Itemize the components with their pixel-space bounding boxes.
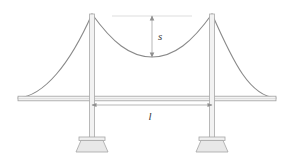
sag-label: s xyxy=(158,30,162,42)
left-tower xyxy=(90,14,95,139)
right-foundation-cap xyxy=(199,137,225,140)
figure-background xyxy=(0,0,292,160)
span-label: l xyxy=(148,110,151,122)
right-tower xyxy=(210,14,215,139)
left-foundation-pier xyxy=(76,140,108,152)
right-foundation-pier xyxy=(196,140,228,152)
bridge-diagram-canvas: s l xyxy=(0,0,292,160)
left-foundation-cap xyxy=(79,137,105,140)
suspension-bridge-figure: s l xyxy=(0,0,292,160)
